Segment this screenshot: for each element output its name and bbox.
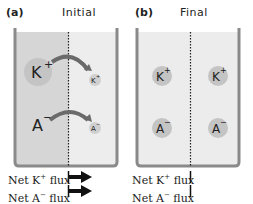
a-flux-prefix: Net A [8,191,40,204]
k-ion-right-charge: + [220,66,227,75]
a-flux-suffix: flux [170,191,194,204]
a-net-flux-arrow-icon [81,185,92,197]
k-ion-large-label: K [31,63,42,82]
k-ion-left-charge: + [164,66,171,75]
k-flux-label: Net K+ flux [8,170,70,188]
k-flux-prefix: Net K [8,174,40,187]
a-flux-label: Net A− flux [8,188,70,204]
beaker-final: K + K + A − A − [137,28,239,166]
a-net-flux-arrow-shaft [69,189,81,193]
a-flux-label: Net A− flux [132,188,194,204]
concentrated-compartment [16,32,69,165]
flux-labels-final: Net K+ flux Net A− flux [132,170,194,204]
panel-b-label: (b) [135,6,153,19]
k-net-flux-arrow-icon [81,171,92,183]
k-net-flux-arrow-shaft [69,175,81,179]
k-ion-small-charge: + [96,73,100,79]
flux-labels-initial: Net K+ flux Net A− flux [8,170,70,204]
dilute-compartment [69,32,116,165]
panel-b-title: Final [180,6,208,19]
a-flux-prefix: Net A [132,191,164,204]
beaker-initial: K + K + A − A − [15,28,117,166]
a-flux-suffix: flux [46,191,70,204]
a-ion-left-charge: − [164,118,171,127]
k-flux-prefix: Net K [132,174,164,187]
k-flux-suffix: flux [170,174,194,187]
a-ion-right-charge: − [220,118,227,127]
k-flux-suffix: flux [46,174,70,187]
a-ion-large-label: A [32,116,43,135]
k-flux-label: Net K+ flux [132,170,194,188]
flux-indicators-initial [69,171,93,197]
equilibrium-fluid [138,32,238,165]
a-ion-small-charge: − [96,121,100,127]
